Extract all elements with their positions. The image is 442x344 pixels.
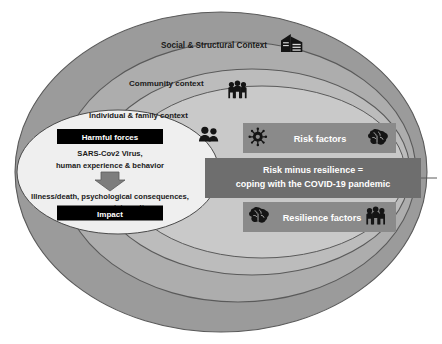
impact-label: Impact (97, 210, 123, 219)
risk-minus-resilience-box[interactable]: Risk minus resilience = coping with the … (205, 158, 421, 198)
risk-minus-resilience-line-2: coping with the COVID-19 pandemic (236, 179, 391, 189)
impact-line-1: Illness/death, psychological consequence… (31, 192, 189, 201)
ring-label-community: Community context (129, 79, 204, 88)
risk-factors-box[interactable]: Risk factors (243, 123, 396, 153)
resilience-factors-label: Resilience factors (283, 213, 362, 223)
harmful-forces-box: Harmful forces (57, 129, 163, 144)
nested-context-diagram: Social & Structural Context Community co… (0, 0, 442, 344)
virus-icon (248, 127, 267, 146)
risk-minus-resilience-line-1: Risk minus resilience = (263, 165, 363, 175)
harmful-forces-line-1: SARS-Cov2 Virus, (77, 149, 142, 158)
risk-factors-label: Risk factors (294, 134, 347, 144)
resilience-factors-box[interactable]: Resilience factors (243, 202, 396, 232)
ring-label-individual-family: Individual & family context (89, 111, 188, 120)
ring-label-social-structural: Social & Structural Context (161, 41, 267, 50)
harmful-forces-label: Harmful forces (82, 133, 139, 142)
harmful-forces-line-2: human experience & behavior (56, 161, 164, 170)
impact-box: Impact (57, 206, 163, 221)
diagram-canvas: Social & Structural Context Community co… (0, 0, 442, 344)
